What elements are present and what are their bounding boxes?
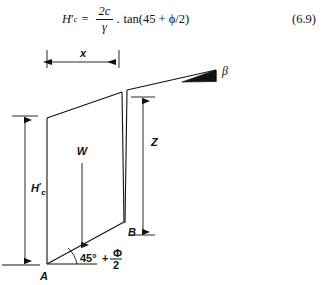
- failure-angle-phi-numerator: Φ: [113, 247, 122, 259]
- equation-equals-sign: =: [82, 13, 89, 26]
- equation-expression: H′c = 2c γ . tan(45 + ϕ/2): [62, 5, 189, 34]
- wedge-top-surface-line: [47, 92, 122, 118]
- equation-row: H′c = 2c γ . tan(45 + ϕ/2) (6.9): [0, 0, 326, 44]
- beta-angle-label: β: [221, 64, 228, 78]
- point-b-label: B: [128, 226, 136, 238]
- height-dimension-label: H′c: [31, 181, 46, 197]
- failure-angle-plus-sign: +: [102, 252, 108, 264]
- failure-angle-phi-denominator: 2: [113, 259, 119, 271]
- z-dimension-label: Z: [150, 136, 159, 148]
- weight-label: W: [77, 145, 89, 157]
- x-dimension-group: x: [47, 47, 119, 68]
- height-dimension-group: H′c: [12, 116, 46, 261]
- equation-tangent-term: tan(45 + ϕ/2): [124, 13, 190, 26]
- ground-slope-group: β: [127, 64, 228, 90]
- wedge-diagram-svg: x β: [0, 42, 326, 285]
- crack-right-wall-line: [125, 90, 127, 223]
- figure-page: H′c = 2c γ . tan(45 + ϕ/2) (6.9): [0, 0, 326, 285]
- equation-lhs-subscript: c: [74, 15, 78, 24]
- equation-lhs-variable: H: [62, 13, 71, 26]
- equation-fraction-denominator: γ: [99, 20, 110, 34]
- point-a-label: A: [39, 270, 48, 282]
- x-dimension-label: x: [79, 47, 87, 59]
- failure-angle-group: 45° + Φ 2: [47, 247, 122, 271]
- equation-fraction-numerator: 2c: [96, 5, 114, 19]
- failure-angle-degrees: 45°: [80, 252, 97, 264]
- crack-left-wall-line: [122, 92, 124, 222]
- equation-multiply-dot: .: [116, 13, 119, 26]
- equation-number: (6.9): [292, 12, 316, 27]
- weight-arrow-group: W: [77, 145, 89, 245]
- wedge-diagram: x β: [0, 42, 326, 285]
- equation-fraction: 2c γ: [96, 5, 114, 34]
- z-dimension-group: Z: [131, 97, 159, 235]
- failure-wedge-group: [47, 90, 127, 264]
